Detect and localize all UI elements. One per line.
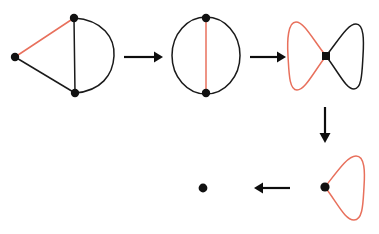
step-2-top-vertex — [202, 14, 210, 22]
step-2-bottom-vertex — [202, 89, 210, 97]
step-1-bottom-vertex — [71, 89, 79, 97]
step-1-group — [11, 14, 114, 97]
graph-reduction-figure: Graph reduction sequence — [0, 0, 379, 234]
arrow-left-step4-to-step5 — [254, 183, 290, 194]
arrow-right-step2-to-step3 — [250, 52, 286, 63]
step-4-group — [320, 156, 364, 220]
step-1-right-arc-edge — [74, 18, 114, 93]
arrow-right-step1-to-step2 — [124, 52, 163, 63]
step-3-center-vertex — [322, 52, 330, 60]
step-1-left-vertex — [11, 53, 19, 61]
step-3-right-loop-edge — [326, 24, 363, 89]
step-1-vertical-chord-edge — [74, 18, 75, 93]
step-4-red-loop-edge — [325, 156, 364, 220]
arrow-2-head — [277, 52, 286, 63]
arrow-down-step3-to-step4 — [320, 107, 331, 143]
step-5-isolated-vertex — [199, 184, 208, 193]
arrow-4-head — [254, 183, 263, 194]
step-5-group — [199, 184, 208, 193]
step-1-top-vertex — [70, 14, 78, 22]
step-1-left-to-top-edge — [15, 18, 74, 57]
step-2-group — [172, 14, 240, 97]
step-1-left-to-bottom-edge — [15, 57, 75, 93]
step-3-left-loop-edge — [288, 22, 326, 90]
figure-canvas — [0, 0, 379, 234]
arrow-3-head — [320, 133, 331, 143]
step-4-loop-vertex — [320, 182, 329, 191]
arrow-1-head — [154, 52, 163, 63]
step-3-group — [288, 22, 364, 90]
